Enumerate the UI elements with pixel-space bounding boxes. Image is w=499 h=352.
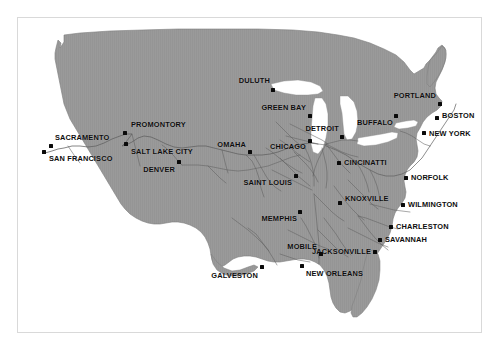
city-dot-new-york	[422, 131, 426, 135]
city-label-omaha: OMAHA	[217, 141, 246, 148]
city-label-buffalo: BUFFALO	[357, 119, 393, 126]
city-label-duluth: DULUTH	[239, 77, 270, 84]
city-dot-detroit	[340, 135, 344, 139]
city-label-galveston: GALVESTON	[211, 272, 258, 279]
city-label-charleston: CHARLESTON	[396, 223, 449, 230]
city-dot-new-orleans	[300, 264, 304, 268]
city-dot-mobile	[319, 252, 323, 256]
city-dot-sacramento	[49, 144, 53, 148]
city-dot-san-francisco	[42, 150, 46, 154]
city-label-green-bay: GREEN BAY	[261, 104, 306, 111]
city-dot-promontory	[123, 131, 127, 135]
city-label-saint-louis: SAINT LOUIS	[244, 179, 292, 186]
city-label-new-york: NEW YORK	[429, 130, 471, 137]
city-dot-savannah	[378, 238, 382, 242]
city-dot-norfolk	[404, 176, 408, 180]
city-dot-duluth	[271, 88, 275, 92]
city-dot-galveston	[260, 265, 264, 269]
map-frame: DULUTHGREEN BAYPORTLANDBOSTONBUFFALONEW …	[17, 17, 482, 333]
city-label-boston: BOSTON	[442, 112, 474, 119]
city-label-wilmington: WILMINGTON	[408, 201, 458, 208]
city-label-portland: PORTLAND	[394, 92, 436, 99]
city-label-chicago: CHICAGO	[270, 143, 306, 150]
city-dot-charleston	[389, 225, 393, 229]
city-label-salt-lake-city: SALT LAKE CITY	[131, 148, 193, 155]
city-layer: DULUTHGREEN BAYPORTLANDBOSTONBUFFALONEW …	[18, 18, 481, 332]
city-label-mobile: MOBILE	[287, 243, 317, 250]
city-label-denver: DENVER	[143, 166, 175, 173]
city-dot-chicago	[308, 139, 312, 143]
city-dot-memphis	[298, 210, 302, 214]
city-dot-wilmington	[401, 203, 405, 207]
city-dot-denver	[177, 160, 181, 164]
city-label-sacramento: SACRAMENTO	[55, 134, 109, 141]
city-label-savannah: SAVANNAH	[385, 236, 427, 243]
map-figure: DULUTHGREEN BAYPORTLANDBOSTONBUFFALONEW …	[0, 0, 499, 352]
city-label-knoxville: KNOXVILLE	[345, 195, 389, 202]
city-dot-cincinatti	[337, 161, 341, 165]
city-label-norfolk: NORFOLK	[411, 174, 449, 181]
city-dot-portland	[438, 102, 442, 106]
city-dot-boston	[435, 116, 439, 120]
city-dot-saint-louis	[294, 174, 298, 178]
city-label-san-francisco: SAN FRANCISCO	[49, 155, 113, 162]
city-dot-green-bay	[308, 114, 312, 118]
city-label-promontory: PROMONTORY	[131, 121, 186, 128]
city-label-detroit: DETROIT	[306, 125, 340, 132]
city-dot-jacksonville	[373, 250, 377, 254]
city-dot-salt-lake-city	[124, 142, 128, 146]
city-dot-omaha	[248, 150, 252, 154]
city-dot-buffalo	[394, 114, 398, 118]
city-label-memphis: MEMPHIS	[261, 215, 297, 222]
city-dot-knoxville	[338, 201, 342, 205]
city-label-new-orleans: NEW ORLEANS	[306, 270, 363, 277]
city-label-cincinatti: CINCINATTI	[344, 159, 387, 166]
